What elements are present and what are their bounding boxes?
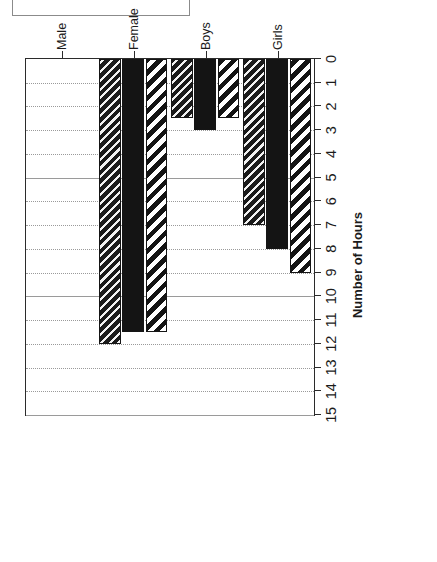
value-axis-tick-label: 8 — [323, 245, 339, 253]
bar-groups — [26, 59, 314, 415]
value-axis-tick-label: 2 — [323, 103, 339, 111]
value-axis-tick-label: 1 — [323, 79, 339, 87]
value-axis-tick-label: 6 — [323, 197, 339, 205]
rotated-chart-canvas: 0123456789101112131415 MaleFemaleBoysGir… — [19, 50, 371, 480]
value-axis-tick-label: 5 — [323, 174, 339, 182]
category-axis-tick-label: Male — [55, 23, 69, 50]
bar — [194, 59, 216, 130]
value-axis-tick — [314, 343, 321, 344]
bar — [266, 59, 288, 249]
value-axis-tick — [314, 105, 321, 106]
bar-group — [242, 59, 314, 415]
category-axis-tick — [62, 51, 63, 59]
category-axis-tick-label: Girls — [271, 24, 285, 50]
category-axis-tick-label: Female — [127, 8, 141, 50]
value-axis-tick-label: 11 — [323, 313, 339, 328]
value-axis-tick-label: 0 — [323, 55, 339, 63]
category-axis-tick — [134, 51, 135, 59]
value-axis-tick-label: 9 — [323, 269, 339, 277]
value-axis-tick-label: 10 — [323, 288, 339, 304]
value-axis-tick — [314, 272, 321, 273]
value-axis-tick — [314, 248, 321, 249]
bar-group — [26, 59, 98, 415]
bar — [289, 59, 311, 273]
value-axis-tick — [314, 82, 321, 83]
value-axis-title: Number of Hours — [350, 50, 365, 480]
figure-stage: 0123456789101112131415 MaleFemaleBoysGir… — [0, 0, 437, 562]
value-axis-tick — [314, 367, 321, 368]
value-axis-tick — [314, 224, 321, 225]
category-axis-tick-label: Boys — [199, 22, 213, 50]
bar-group — [170, 59, 242, 415]
value-axis-tick-label: 13 — [323, 360, 339, 376]
value-axis-tick — [314, 177, 321, 178]
value-axis-tick — [314, 414, 321, 415]
gridline — [26, 415, 314, 416]
value-axis-tick — [314, 153, 321, 154]
category-axis-tick — [278, 51, 279, 59]
value-axis-tick — [314, 58, 321, 59]
bar — [99, 59, 121, 344]
bar-group — [98, 59, 170, 415]
category-axis-tick — [206, 51, 207, 59]
value-axis-tick — [314, 319, 321, 320]
value-axis-tick-label: 12 — [323, 336, 339, 352]
bar — [217, 59, 239, 118]
value-axis-tick — [314, 129, 321, 130]
value-axis-tick-label: 7 — [323, 221, 339, 229]
plot-area: 0123456789101112131415 MaleFemaleBoysGir… — [25, 58, 315, 416]
bar — [145, 59, 167, 332]
value-axis-tick-label: 15 — [323, 407, 339, 423]
bar — [122, 59, 144, 332]
value-axis-tick — [314, 390, 321, 391]
value-axis-tick — [314, 200, 321, 201]
value-axis-tick — [314, 295, 321, 296]
bar — [171, 59, 193, 118]
value-axis-tick-label: 14 — [323, 383, 339, 399]
value-axis-tick-label: 3 — [323, 126, 339, 134]
value-axis-tick-label: 4 — [323, 150, 339, 158]
bar — [243, 59, 265, 225]
